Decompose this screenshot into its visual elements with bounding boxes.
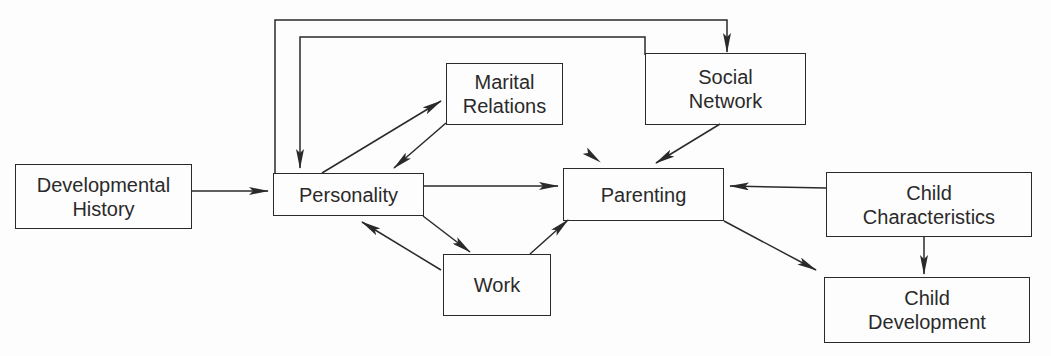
node-label: Characteristics (863, 205, 995, 229)
node-label: Child (904, 286, 950, 310)
node-label: Development (868, 310, 986, 334)
arrow-marital-to-personality (394, 123, 446, 168)
node-parenting: Parenting (563, 168, 724, 221)
node-label: Network (689, 89, 762, 113)
node-child-dev: ChildDevelopment (824, 277, 1030, 343)
node-marital: MaritalRelations (446, 63, 563, 125)
node-label: Relations (463, 94, 546, 118)
arrow-social-to-parenting (656, 124, 720, 163)
arrow-personality-to-work (423, 216, 470, 252)
arrow-child-char-to-parenting (730, 186, 826, 188)
arrow-parenting-to-child-dev (724, 221, 816, 270)
node-label: Work (474, 273, 520, 297)
stray-arrowhead-icon (584, 150, 600, 162)
edge-group (192, 20, 924, 274)
diagram-canvas: DevelopmentalHistoryPersonalityMaritalRe… (0, 0, 1051, 356)
node-label: Child (906, 181, 952, 205)
node-personality: Personality (273, 173, 424, 216)
node-label: Social (698, 65, 752, 89)
node-child-char: ChildCharacteristics (826, 172, 1032, 237)
node-label: History (72, 197, 134, 221)
node-label: Parenting (601, 183, 687, 207)
node-dev-history: DevelopmentalHistory (15, 164, 192, 229)
node-social: SocialNetwork (645, 53, 806, 125)
node-work: Work (443, 254, 551, 316)
arrow-work-to-parenting (530, 220, 568, 254)
arrow-work-to-personality (362, 222, 441, 270)
node-label: Personality (299, 183, 398, 207)
arrow-personality-to-marital (322, 101, 441, 173)
node-label: Developmental (37, 173, 170, 197)
node-label: Marital (474, 70, 534, 94)
